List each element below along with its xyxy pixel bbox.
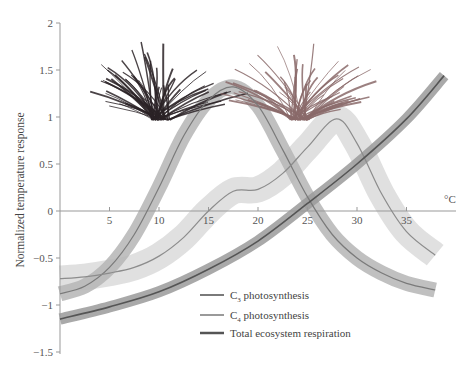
- x-tick-label: 5: [107, 214, 113, 226]
- y-ticks: −1.5−1−0.500.511.52: [33, 17, 60, 358]
- y-tick-label: 0.5: [39, 158, 53, 170]
- x-tick-label: 35: [401, 214, 413, 226]
- legend-label-respiration: Total ecosystem respiration: [230, 327, 351, 339]
- y-tick-label: 0: [48, 205, 54, 217]
- y-tick-label: 1: [48, 111, 54, 123]
- temperature-response-chart: −1.5−1−0.500.511.52 5101520253035 °C Nor…: [0, 0, 472, 375]
- x-tick-label: 15: [203, 214, 215, 226]
- x-tick-label: 10: [154, 214, 166, 226]
- y-axis-label: Normalized temperature response: [14, 112, 27, 267]
- x-tick-label: 25: [302, 214, 314, 226]
- legend-label-c4: C4 photosynthesis: [230, 309, 309, 324]
- y-tick-label: −1: [41, 299, 53, 311]
- y-tick-label: 1.5: [39, 64, 53, 76]
- confidence-bands: [60, 76, 444, 319]
- y-tick-label: −0.5: [33, 252, 53, 264]
- legend-label-c3: C3 photosynthesis: [230, 289, 309, 304]
- legend: C3 photosynthesis C4 photosynthesis Tota…: [200, 289, 351, 339]
- x-tick-label: 30: [352, 214, 364, 226]
- x-axis-unit: °C: [444, 193, 456, 205]
- y-tick-label: −1.5: [33, 346, 53, 358]
- x-tick-label: 20: [253, 214, 265, 226]
- y-tick-label: 2: [48, 17, 54, 29]
- c4-grass-illustration: [221, 44, 377, 120]
